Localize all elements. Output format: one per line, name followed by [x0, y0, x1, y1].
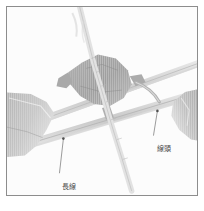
annotation-label-thread-end: 線頭	[157, 145, 171, 154]
annotation-overlay	[7, 7, 197, 195]
image-frame: 長線 線頭	[6, 6, 198, 196]
figure-root: 長線 線頭	[0, 0, 204, 211]
micrograph-image: 長線 線頭	[7, 7, 197, 195]
annotation-label-long-thread: 長線	[62, 183, 76, 192]
leader-thread-end	[153, 110, 158, 136]
leader-long-thread	[59, 137, 64, 173]
